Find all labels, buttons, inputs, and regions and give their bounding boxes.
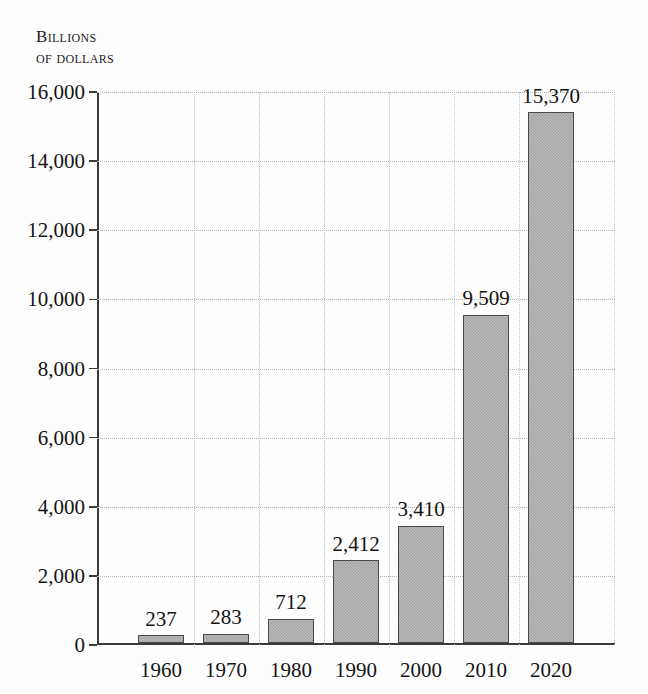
bar-chart-figure: Billions of dollars 02,0004,0006,0008,00…	[0, 0, 648, 694]
gridline-vertical	[614, 92, 615, 645]
y-tick-label: 0	[75, 635, 86, 656]
gridline-vertical	[519, 92, 520, 645]
y-axis-unit-line-2: of dollars	[36, 47, 114, 68]
y-tick-mark	[89, 160, 97, 162]
y-tick-mark	[89, 299, 97, 301]
y-tick-mark	[89, 91, 97, 93]
y-tick-mark	[89, 575, 97, 577]
y-tick-label: 2,000	[38, 565, 85, 586]
x-axis-line	[97, 643, 615, 645]
y-tick-label: 14,000	[27, 151, 85, 172]
y-tick-mark	[89, 506, 97, 508]
bar-1960	[138, 635, 184, 643]
y-tick-mark	[89, 437, 97, 439]
y-tick-label: 16,000	[27, 82, 85, 103]
bar-2010	[463, 315, 509, 644]
y-tick-mark	[89, 229, 97, 231]
bar-2000	[398, 526, 444, 644]
y-tick-label: 4,000	[38, 496, 85, 517]
gridline-vertical	[324, 92, 325, 645]
y-tick-mark	[89, 644, 97, 646]
y-tick-label: 10,000	[27, 289, 85, 310]
y-axis-unit-caption: Billions of dollars	[36, 26, 114, 68]
bar-1980	[268, 619, 314, 644]
gridline-vertical	[194, 92, 195, 645]
x-tick-label: 2020	[491, 660, 611, 681]
bar-2020	[528, 112, 574, 643]
bar-1990	[333, 560, 379, 643]
plot-area: 02,0004,0006,0008,00010,00012,00014,0001…	[97, 92, 615, 645]
bar-1970	[203, 634, 249, 644]
y-tick-label: 12,000	[27, 220, 85, 241]
y-tick-label: 8,000	[38, 358, 85, 379]
y-tick-label: 6,000	[38, 427, 85, 448]
y-axis-unit-line-1: Billions	[36, 26, 114, 47]
bar-value-label: 15,370	[491, 86, 611, 107]
gridline-vertical	[259, 92, 260, 645]
gridline-vertical	[454, 92, 455, 645]
y-tick-mark	[89, 368, 97, 370]
gridline-vertical	[389, 92, 390, 645]
